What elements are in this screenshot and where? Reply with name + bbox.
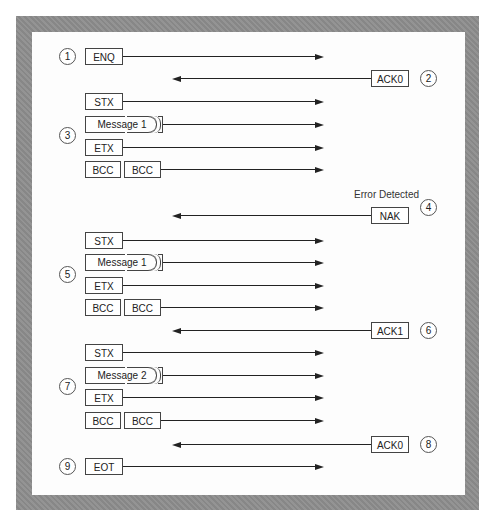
arrow-right-icon bbox=[315, 145, 324, 151]
arrow-right-icon bbox=[315, 99, 324, 105]
arrow-line bbox=[180, 215, 371, 216]
step-number-1: 1 bbox=[59, 48, 76, 65]
arrow-left-icon bbox=[172, 328, 181, 334]
bcc-frame: BCC bbox=[124, 412, 161, 429]
arrow-right-icon bbox=[315, 418, 324, 424]
arrow-right-icon bbox=[315, 167, 324, 173]
nak-frame: NAK bbox=[371, 207, 409, 224]
bcc-frame: BCC bbox=[85, 161, 121, 178]
arrow-right-icon bbox=[315, 395, 324, 401]
arrow-line bbox=[123, 101, 315, 102]
etx-frame: ETX bbox=[85, 277, 123, 294]
arrow-line bbox=[123, 240, 315, 241]
arrow-right-icon bbox=[315, 260, 324, 266]
arrow-line bbox=[161, 420, 315, 421]
bcc-frame: BCC bbox=[85, 299, 121, 316]
step-number-8: 8 bbox=[420, 436, 437, 453]
step-number-6: 6 bbox=[420, 322, 437, 339]
step-number-3: 3 bbox=[59, 127, 76, 144]
arrow-left-icon bbox=[172, 76, 181, 82]
arrow-line bbox=[180, 78, 371, 79]
stx-frame: STX bbox=[85, 232, 123, 249]
message-label: Message 2 bbox=[85, 367, 159, 384]
stx-frame: STX bbox=[85, 344, 123, 361]
arrow-line bbox=[163, 262, 315, 263]
error-detected-note: Error Detected bbox=[354, 189, 419, 200]
arrow-right-icon bbox=[315, 305, 324, 311]
bcc-frame: BCC bbox=[85, 412, 121, 429]
message-label: Message 1 bbox=[85, 116, 159, 133]
arrow-right-icon bbox=[315, 122, 324, 128]
step-number-9: 9 bbox=[59, 458, 76, 475]
arrow-line bbox=[161, 169, 315, 170]
arrow-line bbox=[123, 147, 315, 148]
arrow-right-icon bbox=[315, 373, 324, 379]
arrow-line bbox=[123, 285, 315, 286]
ack0-frame: ACK0 bbox=[371, 70, 409, 87]
stx-frame: STX bbox=[85, 93, 123, 110]
etx-frame: ETX bbox=[85, 389, 123, 406]
step-number-7: 7 bbox=[59, 378, 76, 395]
arrow-right-icon bbox=[315, 238, 324, 244]
arrow-right-icon bbox=[315, 283, 324, 289]
step-number-5: 5 bbox=[59, 266, 76, 283]
arrow-line bbox=[163, 124, 315, 125]
ack1-frame: ACK1 bbox=[371, 322, 409, 339]
arrow-line bbox=[123, 352, 315, 353]
arrow-line bbox=[163, 375, 315, 376]
arrow-right-icon bbox=[315, 350, 324, 356]
arrow-line bbox=[123, 56, 315, 57]
arrow-line bbox=[180, 444, 371, 445]
arrow-line bbox=[123, 466, 315, 467]
arrow-left-icon bbox=[172, 442, 181, 448]
arrow-right-icon bbox=[315, 464, 324, 470]
arrow-left-icon bbox=[172, 213, 181, 219]
step-number-4: 4 bbox=[420, 199, 437, 216]
arrow-right-icon bbox=[315, 54, 324, 60]
message-2-frame: Message 2 bbox=[85, 367, 165, 384]
message-1-frame: Message 1 bbox=[85, 116, 165, 133]
arrow-line bbox=[123, 397, 315, 398]
arrow-line bbox=[161, 307, 315, 308]
enq-frame: ENQ bbox=[85, 48, 123, 65]
message-label: Message 1 bbox=[85, 254, 159, 271]
bcc-frame: BCC bbox=[124, 161, 161, 178]
message-1-frame: Message 1 bbox=[85, 254, 165, 271]
bcc-frame: BCC bbox=[124, 299, 161, 316]
arrow-line bbox=[180, 330, 371, 331]
eot-frame: EOT bbox=[85, 458, 123, 475]
etx-frame: ETX bbox=[85, 139, 123, 156]
ack0-frame: ACK0 bbox=[371, 436, 409, 453]
step-number-2: 2 bbox=[420, 70, 437, 87]
